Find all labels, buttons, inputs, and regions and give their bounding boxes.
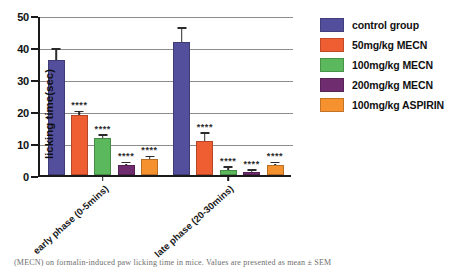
significance-marker: **** [267, 152, 283, 160]
error-bar-cap [75, 111, 84, 113]
legend-label: 100mg/kg ASPIRIN [352, 99, 444, 111]
y-axis-title-text: licking time(sec) [42, 34, 56, 194]
error-bar-cap [177, 27, 186, 29]
bar[interactable] [267, 165, 284, 175]
error-bar-cap [98, 134, 107, 136]
y-axis-tick-label: 50 [17, 11, 29, 23]
error-bar [181, 29, 183, 42]
y-axis-tick [31, 176, 38, 178]
y-axis-title: licking time(sec) [42, 0, 56, 34]
x-axis-tick [227, 175, 229, 181]
y-axis-tick-label: 40 [17, 43, 29, 55]
error-bar-cap [271, 162, 280, 164]
y-axis-tick [31, 112, 38, 114]
y-axis-tick [31, 144, 38, 146]
significance-marker: **** [95, 125, 111, 133]
error-bar-cap [247, 169, 256, 171]
legend-item[interactable]: 50mg/kg MECN [320, 38, 444, 51]
significance-marker: **** [243, 160, 259, 168]
chart-legend: control group50mg/kg MECN100mg/kg MECN20… [320, 18, 444, 111]
bar-slot [173, 17, 190, 175]
legend-swatch [320, 38, 344, 52]
plot-area: ****************early phase (0-5mins)***… [38, 17, 291, 177]
legend-swatch [320, 58, 344, 72]
y-axis-tick [31, 80, 38, 82]
significance-marker: **** [220, 157, 236, 165]
significance-marker: **** [71, 101, 87, 109]
bar[interactable] [118, 165, 135, 175]
bar-slot: **** [118, 17, 135, 175]
error-bar-cap [200, 132, 209, 134]
error-bar-cap [224, 166, 233, 168]
legend-item[interactable]: 100mg/kg ASPIRIN [320, 98, 444, 111]
x-axis-tick-label: late phase (20-30mins) [153, 183, 236, 259]
significance-marker: **** [141, 146, 157, 154]
legend-item[interactable]: 100mg/kg MECN [320, 58, 444, 71]
chart-plot: ****************early phase (0-5mins)***… [38, 17, 291, 177]
bar[interactable] [243, 172, 260, 175]
legend-label: 200mg/kg MECN [352, 79, 433, 91]
error-bar-cap [122, 162, 131, 164]
y-axis-tick-label: 20 [17, 107, 29, 119]
bar-slot: **** [220, 17, 237, 175]
legend-label: 50mg/kg MECN [352, 39, 427, 51]
bar-slot: **** [141, 17, 158, 175]
bar[interactable] [173, 42, 190, 175]
y-axis-tick [31, 16, 38, 18]
legend-swatch [320, 98, 344, 112]
bar[interactable] [71, 115, 88, 175]
bar-group: ****************early phase (0-5mins) [40, 17, 166, 175]
bar-slot: **** [267, 17, 284, 175]
bar-slot: **** [243, 17, 260, 175]
bar-slot: **** [71, 17, 88, 175]
bar-slot: **** [94, 17, 111, 175]
legend-label: control group [352, 19, 419, 31]
legend-label: 100mg/kg MECN [352, 59, 433, 71]
bar-groups: ****************early phase (0-5mins)***… [40, 17, 291, 175]
significance-marker: **** [118, 152, 134, 160]
legend-swatch [320, 18, 344, 32]
y-axis-tick-label: 10 [17, 139, 29, 151]
bar[interactable] [141, 159, 158, 175]
significance-marker: **** [197, 123, 213, 131]
bar[interactable] [94, 138, 111, 175]
y-axis-tick-label: 30 [17, 75, 29, 87]
y-axis-tick [31, 48, 38, 50]
error-bar-cap [145, 156, 154, 158]
bar-group: ****************late phase (20-30mins) [166, 17, 292, 175]
y-axis-tick-label: 0 [23, 171, 29, 183]
bar[interactable] [196, 141, 213, 175]
legend-item[interactable]: 200mg/kg MECN [320, 78, 444, 91]
legend-swatch [320, 78, 344, 92]
x-axis-tick [102, 175, 104, 181]
figure-caption: (MECN) on formalin-induced paw licking t… [14, 258, 454, 267]
legend-item[interactable]: control group [320, 18, 444, 31]
bar-slot: **** [196, 17, 213, 175]
error-bar [204, 134, 206, 141]
figure-container: ****************early phase (0-5mins)***… [0, 0, 455, 269]
